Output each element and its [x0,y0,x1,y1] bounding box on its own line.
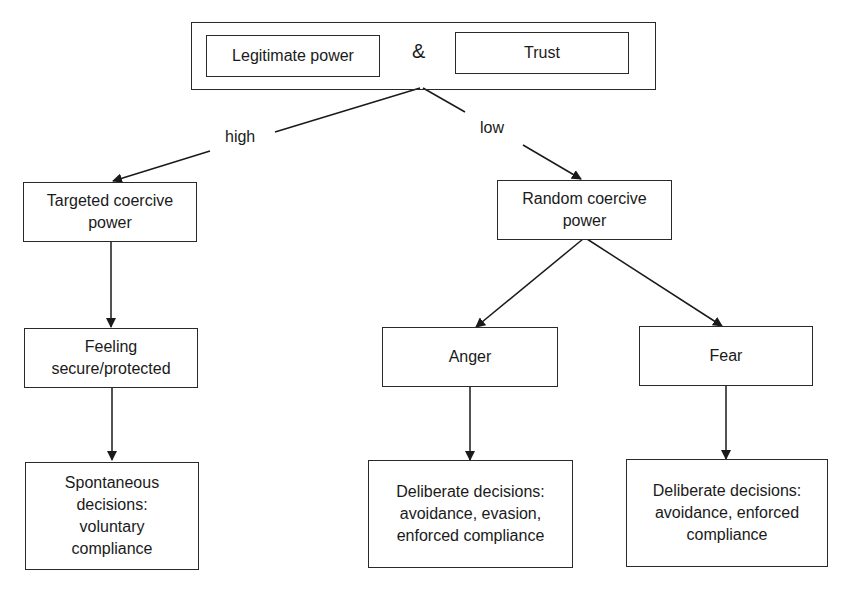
node-label: Spontaneous decisions: voluntary complia… [65,472,159,560]
node-label: Deliberate decisions: avoidance, evasion… [396,481,545,547]
node-label: Random coercive power [522,188,647,232]
edge-label-high: high [225,128,255,146]
node-label: Deliberate decisions: avoidance, enforce… [653,480,802,546]
node-feeling-secure: Feeling secure/protected [24,328,198,388]
node-spontaneous-decisions: Spontaneous decisions: voluntary complia… [25,462,199,570]
edge-label-low: low [480,119,504,137]
node-trust: Trust [455,32,629,74]
node-legitimate-power: Legitimate power [206,35,380,77]
node-anger: Anger [382,327,558,387]
node-label: Trust [524,42,560,64]
node-targeted-coercive-power: Targeted coercive power [23,182,197,242]
node-anger-outcome: Deliberate decisions: avoidance, evasion… [368,460,573,568]
ampersand-label: & [412,40,425,63]
node-label: Feeling secure/protected [51,336,170,380]
node-label: Anger [449,346,492,368]
node-label: Targeted coercive power [47,190,173,234]
node-fear: Fear [639,326,813,386]
node-label: Legitimate power [232,45,354,67]
node-random-coercive-power: Random coercive power [497,180,672,240]
node-fear-outcome: Deliberate decisions: avoidance, enforce… [626,459,828,567]
node-label: Fear [710,345,743,367]
